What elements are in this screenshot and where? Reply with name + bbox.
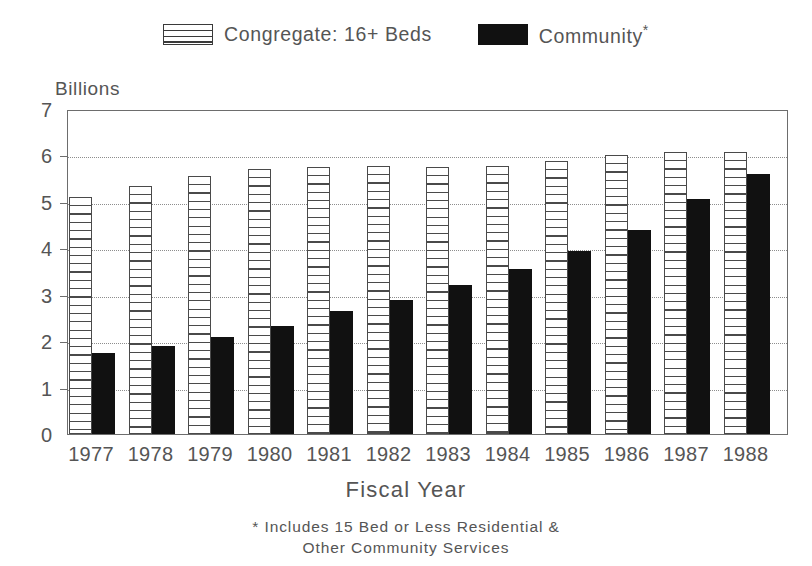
x-axis-label-1978: 1978: [119, 443, 183, 466]
bar-congregate-1977: [69, 197, 92, 434]
y-axis-title: Billions: [55, 78, 120, 100]
y-axis-label: 5: [24, 191, 52, 214]
x-axis-label-1988: 1988: [714, 443, 778, 466]
x-axis-label-1977: 1977: [59, 443, 123, 466]
bar-congregate-1979: [188, 176, 211, 434]
hatched-rect-icon: [163, 24, 213, 45]
x-axis-label-1987: 1987: [654, 443, 718, 466]
bar-community-1982: [390, 300, 413, 434]
bar-community-1984: [509, 269, 532, 434]
legend-item-congregate: Congregate: 16+ Beds: [163, 23, 432, 46]
chart-legend: Congregate: 16+ Beds Community*: [0, 22, 812, 48]
bar-congregate-1988: [724, 152, 747, 434]
bar-community-1981: [330, 311, 353, 434]
bar-congregate-1982: [367, 166, 390, 434]
bar-congregate-1984: [486, 166, 509, 434]
legend-label-community-text: Community: [539, 25, 643, 47]
plot-area: [67, 110, 788, 435]
y-axis-label: 7: [24, 99, 52, 122]
bar-community-1988: [747, 174, 770, 434]
x-axis-label-1985: 1985: [535, 443, 599, 466]
x-axis-label-1981: 1981: [297, 443, 361, 466]
x-axis-label-1984: 1984: [476, 443, 540, 466]
chart-page: { "legend": { "items": [ { "label": "Con…: [0, 0, 812, 566]
footnote-line-1: * Includes 15 Bed or Less Residential &: [0, 516, 812, 537]
y-axis-label: 6: [24, 145, 52, 168]
legend-asterisk: *: [643, 22, 649, 38]
bar-congregate-1987: [664, 152, 687, 434]
bar-congregate-1981: [307, 167, 330, 434]
bar-community-1983: [449, 285, 472, 434]
bar-community-1985: [568, 251, 591, 434]
bar-congregate-1983: [426, 167, 449, 434]
legend-label-congregate: Congregate: 16+ Beds: [224, 23, 432, 46]
y-axis-label: 4: [24, 238, 52, 261]
legend-label-community: Community*: [539, 22, 649, 48]
solid-black-rect-icon: [478, 24, 528, 45]
x-axis-label-1980: 1980: [238, 443, 302, 466]
bar-community-1979: [211, 337, 234, 435]
bar-congregate-1986: [605, 155, 628, 434]
plot-inner: [68, 111, 787, 434]
bar-community-1980: [271, 326, 294, 434]
bar-congregate-1980: [248, 169, 271, 434]
bar-congregate-1978: [129, 186, 152, 434]
bar-community-1978: [152, 346, 175, 434]
legend-item-community: Community*: [478, 22, 649, 48]
bar-congregate-1985: [545, 161, 568, 434]
bar-community-1977: [92, 353, 115, 434]
footnote-line-2: Other Community Services: [0, 537, 812, 558]
y-axis-label: 0: [24, 424, 52, 447]
bar-community-1987: [687, 199, 710, 434]
x-axis-label-1979: 1979: [178, 443, 242, 466]
x-axis-label-1986: 1986: [595, 443, 659, 466]
chart-footnote: * Includes 15 Bed or Less Residential & …: [0, 516, 812, 558]
y-axis-label: 1: [24, 377, 52, 400]
x-axis-label-1982: 1982: [357, 443, 421, 466]
x-axis-title: Fiscal Year: [0, 477, 812, 503]
x-axis-label-1983: 1983: [416, 443, 480, 466]
y-axis-label: 2: [24, 331, 52, 354]
y-axis-label: 3: [24, 284, 52, 307]
bar-community-1986: [628, 230, 651, 434]
